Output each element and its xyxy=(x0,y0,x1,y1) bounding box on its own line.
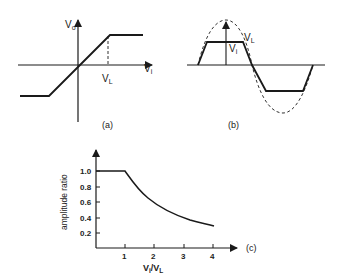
panel-c-amplitude-ratio-chart: 1.0 0.8 0.6 0.4 0.2 1 2 3 4 amplitude ra… xyxy=(59,150,257,274)
panel-c-ytick-0.6: 0.6 xyxy=(80,198,92,207)
panel-b-limit-label: VL xyxy=(244,32,255,44)
panel-a-transfer-characteristic: Vo Vi VL (a) xyxy=(18,19,153,130)
panel-c-xtick-4: 4 xyxy=(210,252,215,261)
panel-c-ytick-0.2: 0.2 xyxy=(80,229,92,238)
panel-c-caption: (c) xyxy=(246,243,257,253)
panel-c-ytick-0.4: 0.4 xyxy=(80,214,92,223)
panel-a-limit-label: VL xyxy=(102,73,113,85)
panel-c-xtick-2: 2 xyxy=(151,252,156,261)
panel-b-clipped-output xyxy=(198,42,313,91)
panel-b-caption: (b) xyxy=(228,120,239,130)
panel-b-clipped-waveform: VL Vi (b) xyxy=(187,20,325,130)
panel-c-xtick-1: 1 xyxy=(122,252,127,261)
panel-c-amplitude-curve xyxy=(96,171,214,226)
diagram-canvas: Vo Vi VL (a) VL Vi (b) 1.0 0.8 0.6 0.4 0… xyxy=(0,0,339,280)
panel-a-caption: (a) xyxy=(102,120,113,130)
panel-c-ytick-0.8: 0.8 xyxy=(80,183,92,192)
panel-c-y-axis-label: amplitude ratio xyxy=(59,174,69,230)
panel-a-y-label: Vo xyxy=(65,19,76,31)
panel-c-xtick-3: 3 xyxy=(181,252,186,261)
panel-b-input-label: Vi xyxy=(229,43,238,55)
panel-c-x-axis-label: Vi/VL xyxy=(143,263,163,274)
panel-c-ytick-1.0: 1.0 xyxy=(80,167,92,176)
panel-b-input-sine-dashed xyxy=(198,20,313,113)
